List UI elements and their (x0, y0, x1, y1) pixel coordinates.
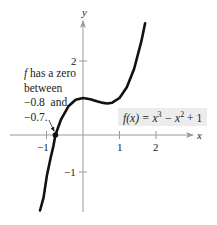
eq-rhs: + 1 (184, 112, 202, 124)
note-line-4: −0.7. (24, 110, 76, 125)
note-line-2: between (24, 81, 76, 96)
eq-lhs: f(x) = x (123, 112, 158, 124)
x-axis-label: x (196, 129, 202, 141)
y-tick-label-neg1: −1 (64, 166, 76, 178)
zero-point-marker (53, 132, 59, 138)
note-line-1-text: has a zero (27, 67, 76, 79)
note-line-1: f has a zero (24, 66, 76, 81)
function-equation-label: f(x) = x3 − x2 + 1 (118, 108, 207, 126)
y-axis-label: y (81, 6, 87, 18)
note-line-3: −0.8 and (24, 95, 76, 110)
x-tick-label-neg1: −1 (37, 141, 49, 153)
eq-mid: − x (162, 112, 181, 124)
zero-annotation: f has a zero between −0.8 and −0.7. (24, 66, 76, 124)
x-tick-label-1: 1 (117, 141, 123, 153)
x-tick-label-2: 2 (153, 141, 159, 153)
